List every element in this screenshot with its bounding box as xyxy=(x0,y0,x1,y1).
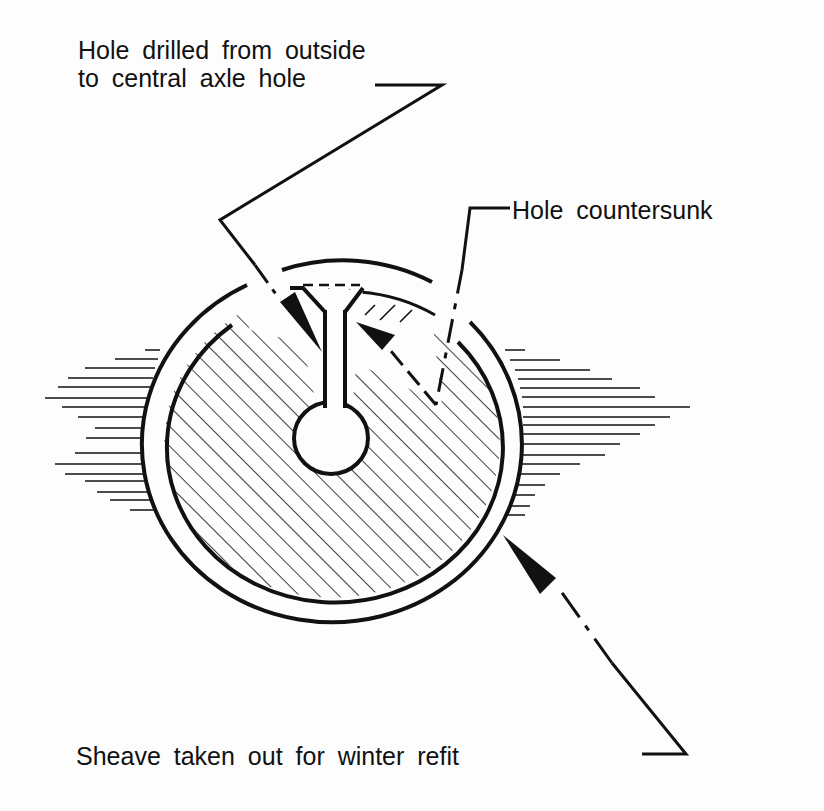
central-axle-hole xyxy=(294,402,368,474)
sheave-drawing xyxy=(0,0,824,811)
diagram-canvas: Hole drilled from outside to central axl… xyxy=(0,0,824,811)
leader-sheave xyxy=(503,535,686,754)
right-hatch-lines xyxy=(505,350,690,515)
